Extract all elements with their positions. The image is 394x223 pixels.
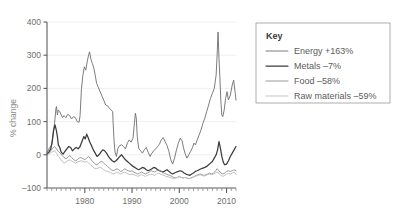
y-axis-title: % change [8,99,18,137]
x-tick-label-1990: 1990 [123,196,142,206]
legend-item-label-1: Metals –7% [294,61,341,71]
chart-canvas: 4003002001000–100 1980199020002010 % cha… [0,0,394,223]
y-tick-label--100: –100 [22,183,41,193]
legend: KeyEnergy +163%Metals –7%Food –58%Raw ma… [256,23,390,103]
series-group [47,32,236,179]
y-tick-label-400: 400 [27,17,41,27]
legend-item-label-3: Raw materials –59% [294,91,377,101]
x-tick-label-1980: 1980 [75,196,94,206]
y-tick-label-100: 100 [27,117,41,127]
legend-item-label-2: Food –58% [294,76,340,86]
commodity-price-change-chart: 4003002001000–100 1980199020002010 % cha… [0,0,394,223]
legend-item-label-0: Energy +163% [294,46,353,56]
y-tick-labels-group: 4003002001000–100 [22,17,41,193]
y-tick-label-300: 300 [27,50,41,60]
y-tick-label-200: 200 [27,83,41,93]
series-line-energy [47,32,236,164]
gridlines-group [47,22,236,155]
legend-title: Key [266,31,283,41]
axes-group [44,22,237,193]
y-tick-label-0: 0 [36,150,41,160]
x-tick-label-2000: 2000 [170,196,189,206]
series-line-metals [47,125,236,175]
x-tick-labels-group: 1980199020002010 [75,196,236,206]
y-axis-title-group: % change [8,99,18,137]
x-tick-label-2010: 2010 [217,196,236,206]
